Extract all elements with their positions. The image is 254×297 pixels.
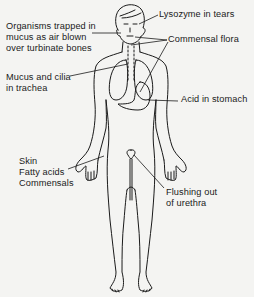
left-fingers [88, 171, 94, 180]
torso-left-outline [76, 52, 122, 180]
label-mucus-cilia: Mucus and cilia in trachea [6, 72, 71, 94]
label-organisms-trapped: Organisms trapped in mucus as air blown … [6, 21, 96, 54]
leader-flushing [134, 155, 164, 188]
label-acid-stomach: Acid in stomach [181, 94, 247, 105]
head-outline [116, 5, 145, 44]
label-skin: Skin Fatty acids Commensals [19, 156, 74, 189]
hair-outline [120, 10, 141, 18]
bladder [127, 150, 135, 159]
label-commensal-flora: Commensal flora [168, 34, 239, 45]
leader-acid [148, 100, 178, 101]
right-arm-inner [156, 100, 164, 160]
leader-lysozyme [139, 15, 158, 24]
crotch [127, 187, 135, 190]
torso-right-outline [140, 52, 186, 180]
torso-left-side [106, 100, 127, 291]
leader-commensal-gut [140, 42, 168, 92]
label-lysozyme: Lysozyme in tears [159, 9, 234, 20]
left-arm-inner [98, 100, 106, 160]
label-flushing-urethra: Flushing out of urethra [166, 187, 217, 209]
trachea [128, 46, 134, 80]
leader-mucus [70, 64, 128, 76]
torso-right-side [135, 100, 156, 291]
face-features [124, 24, 137, 36]
right-fingers [168, 171, 174, 180]
urethra [130, 159, 132, 200]
